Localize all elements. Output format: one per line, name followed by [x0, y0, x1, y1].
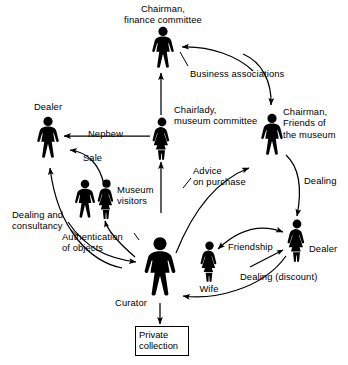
leader-business-associations	[180, 52, 188, 66]
edge-label-authentication-of-objects: Authentication of objects	[62, 231, 123, 254]
node-dealer-left-label: Dealer	[34, 101, 62, 112]
node-chairman-finance-label: Chairman, finance committee	[124, 3, 202, 26]
leader-authentication	[134, 233, 139, 240]
node-visitor-female-figure	[95, 179, 118, 220]
male-figure-icon	[140, 236, 180, 296]
node-chairman-friends-label: Chairman, Friends of the museum	[283, 106, 336, 140]
node-dealer-right-label: Dealer	[309, 243, 337, 254]
edge-label-nephew: Nephew	[88, 128, 123, 139]
edge-label-advice-on-purchase: Advice on purchase	[193, 165, 246, 188]
node-museum-visitors-label: Museum visitors	[117, 184, 154, 207]
edge-chairmanfinance-to-chairmanfriends	[243, 54, 271, 105]
female-figure-icon	[285, 219, 309, 263]
node-chairlady-label: Chairlady, museum committee	[174, 104, 257, 127]
female-figure-icon	[150, 117, 174, 161]
male-figure-icon	[258, 113, 286, 155]
node-chairman-finance-figure	[149, 26, 177, 68]
node-chairman-friends-figure	[258, 113, 286, 155]
edge-label-business-associations: Business associations	[190, 68, 284, 79]
node-wife-label: Wife	[199, 283, 218, 294]
node-dealer-left-figure	[34, 116, 62, 158]
edge-dealing-discount-pointer	[250, 250, 283, 267]
edge-label-dealing: Dealing	[304, 175, 337, 186]
female-figure-icon	[198, 241, 221, 283]
edge-label-sale: Sale	[83, 152, 102, 163]
network-diagram: Chairman, finance committee Chairlady, m…	[0, 0, 348, 365]
node-wife-figure	[198, 241, 221, 283]
node-curator-label: Curator	[115, 297, 147, 308]
edge-label-dealing-discount: Dealing (discount)	[240, 271, 317, 282]
node-private-collection-box: Private collection	[135, 326, 189, 356]
edge-label-friendship: Friendship	[228, 241, 273, 252]
edge-label-dealing-and-consultancy: Dealing and consultancy	[12, 209, 63, 232]
leader-advice	[183, 178, 191, 188]
node-dealer-right-figure	[285, 219, 309, 263]
male-figure-icon	[149, 26, 177, 68]
edge-chairmanfriends-to-dealerright	[286, 155, 299, 216]
node-curator-figure	[140, 236, 180, 296]
female-figure-icon	[95, 179, 118, 220]
node-chairlady-figure	[150, 117, 174, 161]
male-figure-icon	[34, 116, 62, 158]
